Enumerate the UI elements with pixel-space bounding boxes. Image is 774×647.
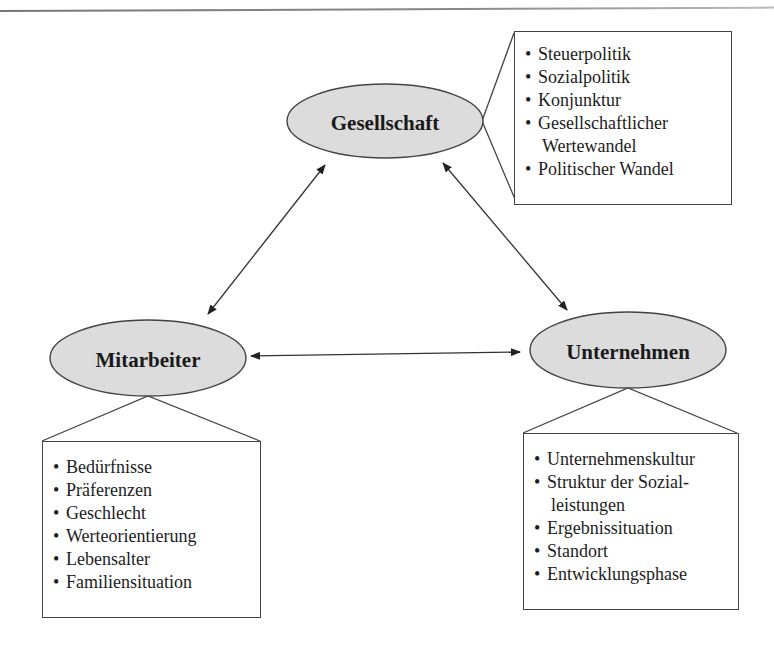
arrow-gesellschaft-mitarbeiter: [208, 165, 325, 314]
list-item: Familiensituation: [53, 571, 252, 594]
list-item-text-continued: Wertewandel: [538, 135, 723, 158]
unternehmen-factors-box: Unternehmenskultur Struktur der Sozial-l…: [523, 433, 739, 610]
mitarbeiter-factors-list: Bedürfnisse Präferenzen Geschlecht Werte…: [53, 456, 252, 594]
gesellschaft-label: Gesellschaft: [331, 111, 439, 136]
list-item: Entwicklungsphase: [534, 563, 730, 586]
list-item: Konjunktur: [525, 89, 723, 112]
mitarbeiter-label: Mitarbeiter: [96, 348, 201, 373]
list-item: Sozialpolitik: [525, 66, 723, 89]
list-item: Präferenzen: [53, 479, 252, 502]
list-item: Bedürfnisse: [53, 456, 252, 479]
gesellschaft-factors-box: Steuerpolitik Sozialpolitik Konjunktur G…: [514, 31, 732, 205]
list-item-text-continued: leistungen: [547, 494, 730, 517]
list-item-text: Ergebnissituation: [547, 518, 673, 538]
list-item: Lebensalter: [53, 548, 252, 571]
list-item-text: Unternehmenskultur: [547, 449, 695, 469]
arrow-mitarbeiter-unternehmen: [251, 352, 520, 356]
gesellschaft-factors-list: Steuerpolitik Sozialpolitik Konjunktur G…: [525, 43, 723, 181]
gesellschaft-callout-connector: [482, 33, 517, 204]
mitarbeiter-factors-box: Bedürfnisse Präferenzen Geschlecht Werte…: [42, 441, 261, 618]
list-item-text: Struktur der Sozial-: [547, 472, 689, 492]
list-item: Ergebnissituation: [534, 517, 730, 540]
list-item: Steuerpolitik: [525, 43, 723, 66]
list-item-text: Entwicklungsphase: [547, 564, 687, 584]
list-item-text: Steuerpolitik: [538, 44, 631, 64]
list-item: Standort: [534, 540, 730, 563]
list-item: Geschlecht: [53, 502, 252, 525]
unternehmen-factors-list: Unternehmenskultur Struktur der Sozial-l…: [534, 448, 730, 586]
unternehmen-callout-connector: [523, 388, 737, 433]
list-item: Unternehmenskultur: [534, 448, 730, 471]
list-item: GesellschaftlicherWertewandel: [525, 112, 723, 158]
list-item: Politischer Wandel: [525, 158, 723, 181]
list-item-text: Gesellschaftlicher: [538, 113, 668, 133]
unternehmen-label: Unternehmen: [566, 340, 690, 365]
list-item-text: Sozialpolitik: [538, 67, 630, 87]
mitarbeiter-callout-connector: [42, 396, 260, 441]
list-item-text: Politischer Wandel: [538, 159, 674, 179]
list-item: Struktur der Sozial-leistungen: [534, 471, 730, 517]
list-item: Werteorientierung: [53, 525, 252, 548]
list-item-text: Konjunktur: [538, 90, 621, 110]
list-item-text: Standort: [547, 541, 608, 561]
